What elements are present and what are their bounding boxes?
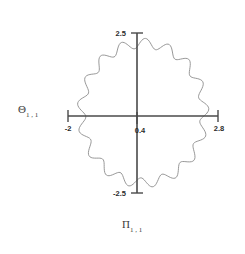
y-axis-label: Θ1 , 1	[18, 103, 39, 119]
plot-figure: -2 0.4 2.8 2.5 -2.5 Θ1 , 1 Π1 , 1	[0, 0, 245, 254]
x-tick-label-right: 2.8	[214, 124, 224, 133]
orbit-curve	[78, 38, 209, 186]
y-axis-subscript: 1 , 1	[26, 111, 39, 119]
y-axis-symbol: Θ	[18, 103, 26, 115]
plot-canvas: -2 0.4 2.8 2.5 -2.5 Θ1 , 1 Π1 , 1	[0, 0, 245, 254]
x-tick-label-center: 0.4	[135, 126, 146, 135]
y-tick-label-bottom: -2.5	[113, 189, 126, 198]
x-axis-label: Π1 , 1	[122, 218, 143, 234]
x-tick-label-left: -2	[65, 124, 72, 133]
x-axis-symbol: Π	[122, 218, 130, 230]
y-tick-label-top: 2.5	[116, 29, 126, 38]
x-axis-subscript: 1 , 1	[130, 226, 143, 234]
